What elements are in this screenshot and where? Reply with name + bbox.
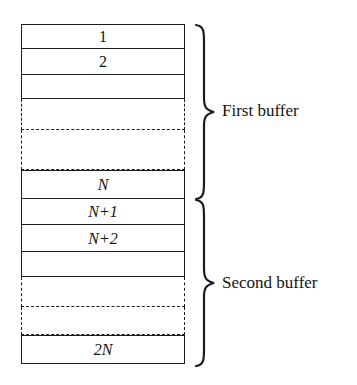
- memory-slot-table: 1 2 N N+1 N+2: [21, 24, 185, 364]
- slot-second-empty: [21, 252, 185, 277]
- slot-2: 2: [21, 49, 185, 75]
- second-buffer-brace: [193, 197, 219, 369]
- slot-n-plus-2: N+2: [21, 225, 185, 252]
- slot-2n-label: 2N: [22, 342, 184, 358]
- slot-n-plus-1-label: N+1: [22, 204, 184, 220]
- slot-2n: 2N: [21, 335, 185, 364]
- buffer-layout-diagram: 1 2 N N+1 N+2: [0, 0, 357, 385]
- first-buffer-brace: [193, 22, 219, 202]
- slot-1: 1: [21, 24, 185, 49]
- first-buffer-label: First buffer: [222, 102, 299, 119]
- slot-3-empty: [21, 75, 185, 99]
- slot-gap-3: [21, 277, 185, 307]
- slot-gap-4: [21, 307, 185, 335]
- slot-2-label: 2: [22, 54, 184, 70]
- slot-n-plus-1: N+1: [21, 199, 185, 225]
- slot-gap-2: [21, 130, 185, 170]
- slot-n-plus-2-label: N+2: [22, 231, 184, 247]
- slot-gap-1: [21, 99, 185, 130]
- slot-n-label: N: [22, 177, 184, 193]
- second-buffer-label: Second buffer: [222, 274, 318, 291]
- slot-n: N: [21, 170, 185, 199]
- slot-1-label: 1: [22, 29, 184, 45]
